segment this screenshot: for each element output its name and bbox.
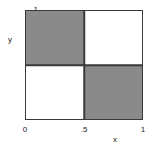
x-axis-tick-label-0: 0 <box>16 126 34 134</box>
horizontal-divider-line <box>26 64 142 66</box>
y-axis-title: y <box>8 36 12 44</box>
checkerboard-heatmap-figure: 1 .5 y 0 .5 1 x <box>0 0 149 146</box>
x-axis-tick-label-half: .5 <box>75 126 93 134</box>
heatmap-cell <box>26 65 84 119</box>
x-axis-title: x <box>113 136 117 144</box>
heatmap-cell <box>84 11 142 65</box>
heatmap-cell <box>84 65 142 119</box>
x-axis-tick-label-1: 1 <box>134 126 149 134</box>
heatmap-cell <box>26 11 84 65</box>
plot-area <box>25 10 143 120</box>
